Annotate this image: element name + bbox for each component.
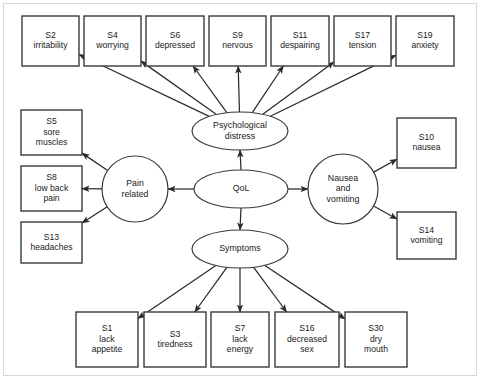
edge-qol-to-symptoms xyxy=(240,208,241,230)
node-label-line: S16 xyxy=(299,323,315,333)
node-label-line: headaches xyxy=(30,242,72,252)
node-label-line: S13 xyxy=(44,232,60,242)
node-label-line: S10 xyxy=(419,132,435,142)
node-label-line: sex xyxy=(300,344,314,354)
indicator-node-s17[interactable]: S17tension xyxy=(334,16,391,66)
node-label-line: S4 xyxy=(107,30,118,40)
indicator-node-s30[interactable]: S30drymouth xyxy=(345,312,407,367)
indicator-node-s7[interactable]: S7lackenergy xyxy=(211,312,269,367)
edge-symptoms-to-s3 xyxy=(195,267,227,312)
node-label-line: muscles xyxy=(36,137,68,147)
node-label-line: nausea xyxy=(412,142,440,152)
indicator-node-s19[interactable]: S19anxiety xyxy=(396,16,454,66)
indicator-node-s8[interactable]: S8low backpain xyxy=(21,166,82,211)
node-label-line: S14 xyxy=(419,225,435,235)
edge-nausea-and-vomiting-to-s10 xyxy=(374,159,397,172)
indicator-node-s11[interactable]: S11despairing xyxy=(271,16,329,66)
node-label-line: Pain xyxy=(126,178,144,188)
indicator-node-s9[interactable]: S9nervous xyxy=(209,16,266,66)
node-label-line: S30 xyxy=(368,323,384,333)
node-label-line: lack xyxy=(99,334,115,344)
node-label-line: S17 xyxy=(355,30,371,40)
node-label-line: despairing xyxy=(280,40,320,50)
edge-pain-related-to-s5 xyxy=(82,153,108,170)
node-label-line: appetite xyxy=(92,344,123,354)
latent-node-symptoms[interactable]: Symptoms xyxy=(192,230,288,268)
node-label-line: depressed xyxy=(155,40,195,50)
node-label-line: QoL xyxy=(233,183,250,193)
latent-node-qol[interactable]: QoL xyxy=(194,170,288,208)
indicator-node-s14[interactable]: S14vomiting xyxy=(397,212,456,259)
node-label-line: tension xyxy=(349,40,377,50)
node-label-line: vomiting xyxy=(327,194,360,204)
node-label-line: S9 xyxy=(232,30,243,40)
edge-psychological-distress-to-s9 xyxy=(238,66,239,112)
node-label-line: mouth xyxy=(364,344,388,354)
indicator-node-s6[interactable]: S6depressed xyxy=(146,16,204,66)
edge-nausea-and-vomiting-to-s14 xyxy=(374,206,397,219)
edge-psychological-distress-to-s4 xyxy=(141,61,217,114)
node-label-line: S6 xyxy=(170,30,181,40)
node-label-line: low back xyxy=(35,183,69,193)
path-diagram-canvas: S2irritabilityS4worryingS6depressedS9ner… xyxy=(0,0,480,387)
indicator-node-s1[interactable]: S1lackappetite xyxy=(76,312,138,367)
node-label-line: nervous xyxy=(222,40,253,50)
node-label-line: vomiting xyxy=(411,235,443,245)
edge-pain-related-to-s13 xyxy=(82,207,107,223)
node-label-line: related xyxy=(122,189,149,199)
node-label-line: S2 xyxy=(45,30,56,40)
indicator-node-s13[interactable]: S13headaches xyxy=(21,222,82,263)
indicator-node-s10[interactable]: S10nausea xyxy=(397,118,456,168)
latent-node-nausea-and-vomiting[interactable]: Nauseaandvomiting xyxy=(308,154,378,224)
diagram-svg: S2irritabilityS4worryingS6depressedS9ner… xyxy=(0,0,480,387)
node-label-line: irritability xyxy=(34,40,69,50)
node-label-line: decreased xyxy=(287,334,327,344)
indicator-node-s5[interactable]: S5soremuscles xyxy=(21,110,82,155)
node-label-line: worrying xyxy=(95,40,129,50)
node-label-line: S5 xyxy=(46,116,57,126)
node-label-line: tiredness xyxy=(158,339,193,349)
indicator-node-s2[interactable]: S2irritability xyxy=(22,16,79,66)
edge-qol-to-psychological-distress xyxy=(240,150,241,170)
latent-node-pain-related[interactable]: Painrelated xyxy=(102,156,168,222)
node-label-line: S8 xyxy=(46,172,57,182)
node-label-line: and xyxy=(336,183,351,193)
edge-psychological-distress-to-s17 xyxy=(263,62,334,114)
indicator-node-s4[interactable]: S4worrying xyxy=(84,16,141,66)
latent-node-psychological-distress[interactable]: Psychologicaldistress xyxy=(192,112,288,150)
node-label-line: Symptoms xyxy=(219,243,261,253)
edge-symptoms-to-s30 xyxy=(265,265,345,319)
node-label-line: anxiety xyxy=(411,40,439,50)
node-label-line: S7 xyxy=(235,323,246,333)
node-label-line: sore xyxy=(43,127,60,137)
node-label-line: energy xyxy=(227,344,254,354)
node-label-line: distress xyxy=(225,131,256,141)
node-label-line: S1 xyxy=(102,323,113,333)
indicator-node-s3[interactable]: S3tiredness xyxy=(144,312,206,367)
node-label-line: lack xyxy=(232,334,248,344)
edge-psychological-distress-to-s6 xyxy=(193,66,227,113)
node-label-line: S11 xyxy=(293,30,308,40)
edge-symptoms-to-s1 xyxy=(138,265,216,318)
edge-psychological-distress-to-s11 xyxy=(252,66,283,113)
edge-symptoms-to-s16 xyxy=(253,267,286,312)
node-label-line: Psychological xyxy=(213,120,267,130)
node-label-line: dry xyxy=(370,334,383,344)
indicator-node-s16[interactable]: S16decreasedsex xyxy=(275,312,339,367)
node-label-line: Nausea xyxy=(328,173,358,183)
node-label-line: S19 xyxy=(417,30,433,40)
node-label-line: S3 xyxy=(170,329,181,339)
node-label-line: pain xyxy=(43,193,59,203)
